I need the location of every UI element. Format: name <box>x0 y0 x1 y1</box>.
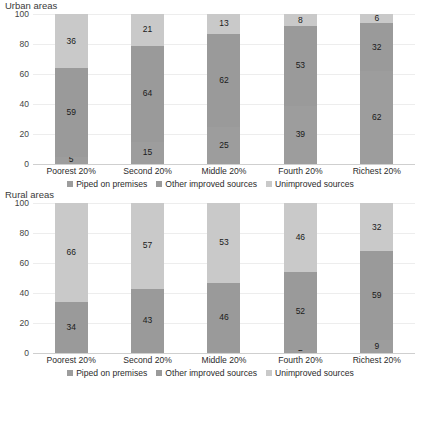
bar-segment-rural[interactable]: 1 <box>207 352 240 354</box>
stacked-bar-rural[interactable]: 4357 <box>131 203 164 353</box>
legend-swatch-icon <box>156 181 162 187</box>
y-tick-label-urban: 60 <box>20 69 29 79</box>
stacked-bar-rural[interactable]: 95932 <box>360 203 393 353</box>
bar-segment-urban[interactable]: 32 <box>360 23 393 71</box>
x-tick-label-urban: Fourth 20% <box>263 166 337 176</box>
bar-segment-urban[interactable]: 53 <box>284 26 317 106</box>
stacked-bar-rural[interactable]: 25246 <box>284 203 317 353</box>
bar-value-label-urban: 21 <box>143 25 152 34</box>
bar-value-label-rural: 43 <box>143 316 152 325</box>
bar-value-label-urban: 62 <box>372 113 381 122</box>
y-tick-label-rural: 0 <box>24 348 29 358</box>
chart-panel-rural: Rural areas 020406080100 346643571465325… <box>0 189 421 378</box>
bar-segment-urban[interactable]: 21 <box>131 14 164 46</box>
x-tick-label-rural: Poorest 20% <box>34 355 108 365</box>
bar-slot-urban[interactable]: 55936 <box>34 14 108 164</box>
bar-slot-urban[interactable]: 62326 <box>340 14 414 164</box>
legend-label-urban: Other improved sources <box>165 179 257 189</box>
bar-value-label-urban: 15 <box>143 148 152 157</box>
x-tick-label-rural: Fourth 20% <box>263 355 337 365</box>
legend-item-urban[interactable]: Piped on premises <box>67 179 147 189</box>
bar-slot-rural[interactable]: 3466 <box>34 203 108 353</box>
legend-rural: Piped on premisesOther improved sourcesU… <box>0 368 421 378</box>
bar-segment-rural[interactable]: 43 <box>131 289 164 354</box>
bar-segment-urban[interactable]: 62 <box>207 34 240 127</box>
chart-panel-urban: Urban areas 020406080100 559361564212562… <box>0 0 421 189</box>
legend-item-rural[interactable]: Unimproved sources <box>266 368 354 378</box>
bar-value-label-urban: 59 <box>66 108 75 117</box>
stacked-bar-rural[interactable]: 14653 <box>207 203 240 353</box>
bar-segment-urban[interactable]: 13 <box>207 14 240 34</box>
bar-value-label-rural: 66 <box>66 248 75 257</box>
y-tick-label-urban: 100 <box>15 9 29 19</box>
stacked-bar-urban[interactable]: 156421 <box>131 14 164 164</box>
bar-slot-urban[interactable]: 39538 <box>263 14 337 164</box>
bar-segment-rural[interactable]: 34 <box>55 302 88 353</box>
stacked-bar-urban[interactable]: 62326 <box>360 14 393 164</box>
bar-segment-rural[interactable]: 9 <box>360 340 393 354</box>
x-axis-labels-rural: Poorest 20%Second 20%Middle 20%Fourth 20… <box>33 355 415 365</box>
bar-segment-urban[interactable]: 15 <box>131 142 164 165</box>
bar-slot-rural[interactable]: 14653 <box>187 203 261 353</box>
bar-segment-urban[interactable]: 5 <box>55 157 88 165</box>
bar-value-label-rural: 52 <box>296 307 305 316</box>
bar-segment-urban[interactable]: 39 <box>284 106 317 165</box>
stacked-bar-urban[interactable]: 55936 <box>55 14 88 164</box>
bar-segment-urban[interactable]: 36 <box>55 14 88 68</box>
gridline-urban <box>33 164 415 165</box>
bar-segment-rural[interactable]: 2 <box>284 350 317 353</box>
stacked-bar-urban[interactable]: 39538 <box>284 14 317 164</box>
legend-item-rural[interactable]: Other improved sources <box>156 368 257 378</box>
bar-value-label-urban: 25 <box>219 141 228 150</box>
x-tick-label-urban: Second 20% <box>110 166 184 176</box>
y-tick-label-rural: 40 <box>20 288 29 298</box>
legend-item-urban[interactable]: Other improved sources <box>156 179 257 189</box>
y-tick-label-rural: 20 <box>20 318 29 328</box>
bar-segment-urban[interactable]: 59 <box>55 68 88 157</box>
bar-segment-urban[interactable]: 25 <box>207 127 240 165</box>
bar-value-label-rural: 57 <box>143 241 152 250</box>
bar-segment-rural[interactable]: 66 <box>55 203 88 302</box>
bar-value-label-rural: 46 <box>296 233 305 242</box>
plot-canvas-urban: 559361564212562133953862326 <box>33 14 415 164</box>
bar-slot-rural[interactable]: 25246 <box>263 203 337 353</box>
bar-segment-rural[interactable]: 32 <box>360 203 393 251</box>
y-tick-label-rural: 80 <box>20 228 29 238</box>
bar-segment-rural[interactable]: 46 <box>207 283 240 352</box>
legend-swatch-icon <box>266 370 272 376</box>
legend-swatch-icon <box>67 370 73 376</box>
bar-segment-urban[interactable]: 6 <box>360 14 393 23</box>
legend-urban: Piped on premisesOther improved sourcesU… <box>0 179 421 189</box>
x-tick-label-urban: Poorest 20% <box>34 166 108 176</box>
bar-segment-urban[interactable]: 62 <box>360 71 393 164</box>
bar-value-label-urban: 36 <box>66 37 75 46</box>
bar-value-label-rural: 59 <box>372 291 381 300</box>
bar-segment-rural[interactable]: 46 <box>284 203 317 272</box>
legend-item-urban[interactable]: Unimproved sources <box>266 179 354 189</box>
legend-item-rural[interactable]: Piped on premises <box>67 368 147 378</box>
bar-segment-urban[interactable]: 64 <box>131 46 164 142</box>
bar-slot-urban[interactable]: 256213 <box>187 14 261 164</box>
bar-value-label-urban: 13 <box>219 19 228 28</box>
bar-value-label-urban: 62 <box>219 76 228 85</box>
y-axis-rural: 020406080100 <box>0 203 33 353</box>
bar-segment-rural[interactable]: 57 <box>131 203 164 289</box>
bar-segment-urban[interactable]: 8 <box>284 14 317 26</box>
bar-value-label-rural: 34 <box>66 323 75 332</box>
legend-label-urban: Piped on premises <box>76 179 147 189</box>
bar-value-label-rural: 32 <box>372 223 381 232</box>
bar-slot-rural[interactable]: 4357 <box>110 203 184 353</box>
bar-segment-rural[interactable]: 52 <box>284 272 317 350</box>
legend-swatch-icon <box>266 181 272 187</box>
bar-slot-rural[interactable]: 95932 <box>340 203 414 353</box>
bar-slot-urban[interactable]: 156421 <box>110 14 184 164</box>
stacked-bar-urban[interactable]: 256213 <box>207 14 240 164</box>
bar-segment-rural[interactable]: 53 <box>207 203 240 283</box>
bar-group-urban: 559361564212562133953862326 <box>33 14 415 164</box>
legend-label-urban: Unimproved sources <box>275 179 354 189</box>
bar-segment-rural[interactable]: 59 <box>360 251 393 340</box>
x-tick-label-urban: Richest 20% <box>340 166 414 176</box>
x-tick-label-rural: Middle 20% <box>187 355 261 365</box>
stacked-bar-rural[interactable]: 3466 <box>55 203 88 353</box>
gridline-rural <box>33 353 415 354</box>
